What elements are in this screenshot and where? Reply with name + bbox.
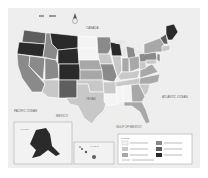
label-gulf: GULF OF MEXICO (116, 125, 142, 129)
legend-swatch-4 (156, 141, 162, 145)
state-louisiana[interactable] (104, 94, 118, 106)
legend-swatch-1 (122, 141, 128, 145)
label-alaska: ALASKA (20, 128, 30, 131)
state-utah[interactable] (45, 58, 59, 80)
legend-swatch-6 (156, 153, 162, 157)
legend-swatch-2 (122, 147, 128, 151)
hawaii-inset: HAWAII (74, 142, 114, 164)
label-texas: TEXAS (86, 97, 96, 101)
state-nebraska[interactable] (79, 60, 102, 70)
label-pacific: PACIFIC OCEAN (14, 109, 37, 113)
state-south-dakota[interactable] (78, 48, 97, 60)
state-wyoming[interactable] (58, 48, 79, 64)
state-hawaii[interactable] (92, 155, 96, 159)
legend-swatch-5 (156, 147, 162, 151)
scale-bar (34, 15, 56, 17)
state-wisconsin[interactable] (110, 42, 122, 56)
legend: Legend (118, 134, 192, 164)
legend-title: Legend (121, 137, 130, 140)
state-new-mexico[interactable] (59, 80, 77, 98)
state-indiana[interactable] (122, 58, 129, 72)
us-map: CANADA PACIFIC OCEAN MEXICO ATLANTIC OCE… (0, 0, 208, 178)
state-kansas[interactable] (80, 70, 103, 80)
state-arkansas[interactable] (103, 82, 116, 94)
legend-swatch-3 (122, 153, 128, 157)
label-hawaii: HAWAII (90, 145, 99, 148)
state-iowa[interactable] (98, 54, 113, 64)
state-colorado[interactable] (59, 64, 80, 80)
state-alabama[interactable] (123, 85, 132, 102)
state-mississippi[interactable] (116, 86, 123, 102)
label-mexico: MEXICO (56, 114, 69, 118)
alaska-inset: ALASKA (14, 122, 72, 164)
label-canada: CANADA (86, 26, 99, 30)
state-maryland-delaware[interactable] (146, 60, 157, 64)
state-north-dakota[interactable] (78, 36, 97, 48)
label-atlantic: ATLANTIC OCEAN (162, 95, 188, 99)
